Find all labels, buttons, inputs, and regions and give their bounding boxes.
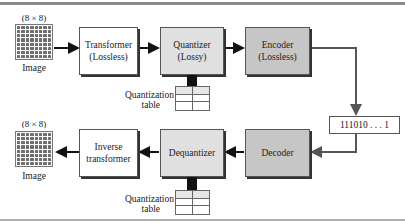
dequantization-table-icon xyxy=(175,190,210,215)
quantization-table-label: Quantization table xyxy=(112,90,174,110)
transformer-subtitle: (Lossless) xyxy=(89,51,128,63)
decoder-title: Decoder xyxy=(261,147,293,159)
decoder-block: Decoder xyxy=(245,129,310,177)
transformer-title: Transformer xyxy=(85,39,132,51)
quantizer-title: Quantizer xyxy=(173,39,210,51)
transformer-block: Transformer (Lossless) xyxy=(79,27,138,75)
bitstream-box: 111010 . . . 1 xyxy=(329,116,400,134)
inverse-transformer-block: Inverse transformer xyxy=(79,129,138,177)
quantization-table-label-line2: table xyxy=(112,100,174,110)
dequantization-table-label-line1: Quantization xyxy=(112,194,174,204)
encoder-block: Encoder (Lossless) xyxy=(245,27,310,75)
quantizer-subtitle: (Lossy) xyxy=(177,51,206,63)
image-size-label: (8 × 8) xyxy=(15,13,53,23)
dequantization-table-label-line2: table xyxy=(112,204,174,214)
output-image-grid-icon xyxy=(15,131,53,167)
dequantizer-block: Dequantizer xyxy=(160,129,224,177)
output-image-label: Image xyxy=(15,171,53,181)
output-image-size-label: (8 × 8) xyxy=(15,119,53,129)
quantizer-block: Quantizer (Lossy) xyxy=(160,27,224,75)
dequantizer-table-stem xyxy=(187,177,197,190)
dequantization-table-label: Quantization table xyxy=(112,194,174,214)
input-image-label: Image xyxy=(15,63,53,73)
quantization-table-icon xyxy=(175,86,210,111)
encoder-title: Encoder xyxy=(262,39,294,51)
encoder-subtitle: (Lossless) xyxy=(258,51,297,63)
inverse-transformer-line1: Inverse xyxy=(95,141,123,153)
quantization-table-label-line1: Quantization xyxy=(112,90,174,100)
input-image-grid-icon xyxy=(15,24,53,60)
dequantizer-title: Dequantizer xyxy=(169,147,215,159)
inverse-transformer-line2: transformer xyxy=(86,153,130,165)
